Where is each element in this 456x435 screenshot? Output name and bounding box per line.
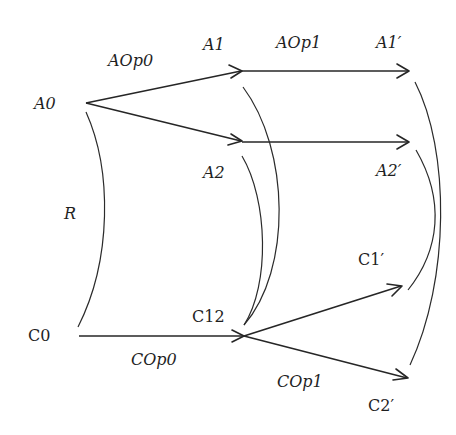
node-c0: C0	[28, 326, 50, 345]
relation-arc-a1-c12	[243, 87, 279, 325]
edge-label-aop0: AOp0	[106, 51, 153, 70]
relation-arc-r	[78, 112, 105, 327]
commutative-diagram: A0 A1 A2 A1′ A2′ C0 C12 C1′ C2′ AOp0 AOp…	[0, 0, 456, 435]
edge-label-aop1: AOp1	[274, 33, 321, 52]
edge-a2-a2prime	[242, 135, 409, 149]
edge-a0-a2	[86, 103, 242, 145]
node-c1prime: C1′	[358, 250, 384, 269]
edge-c12-c2prime	[244, 336, 408, 380]
node-c2prime: C2′	[368, 396, 394, 415]
edge-c12-c1prime	[244, 284, 402, 336]
node-a1prime: A1′	[374, 33, 402, 52]
node-c12: C12	[192, 307, 225, 326]
relation-arc-a2-c12	[242, 156, 263, 325]
edge-label-cop1: COp1	[277, 372, 323, 391]
node-a0: A0	[32, 94, 56, 113]
node-a2prime: A2′	[374, 161, 402, 180]
relation-arc-a2prime-c1prime	[408, 150, 435, 290]
edge-c0-c12	[79, 330, 244, 342]
edge-a0-a1	[86, 65, 242, 103]
node-a2: A2	[201, 163, 225, 182]
node-a1: A1	[201, 35, 225, 54]
relation-label-r: R	[63, 204, 76, 223]
edge-a1-a1prime	[242, 64, 409, 78]
relation-arc-a1prime-c2prime	[410, 82, 441, 365]
edge-label-cop0: COp0	[131, 350, 177, 369]
